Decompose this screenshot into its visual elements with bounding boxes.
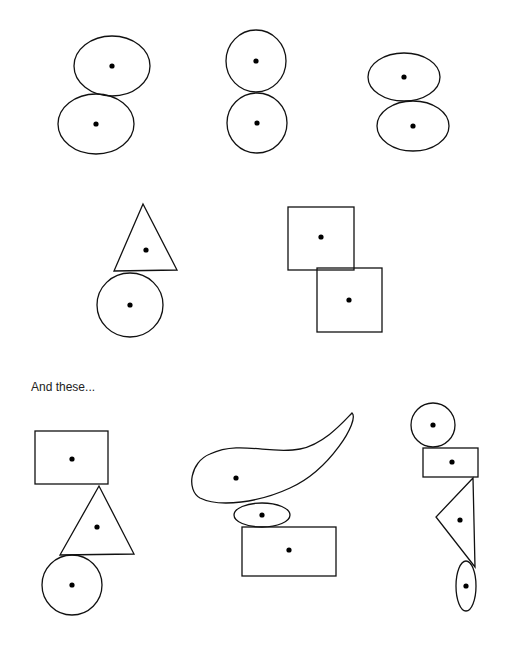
center-dot	[463, 583, 468, 588]
center-dot	[410, 123, 415, 128]
group-circle-rect-triangle-ellipse	[411, 403, 478, 611]
center-dot	[109, 63, 114, 68]
triangle-shape	[114, 204, 177, 271]
shapes-canvas	[0, 0, 509, 656]
group-two-ellipses-offset	[58, 36, 150, 154]
center-dot	[449, 459, 454, 464]
triangle-shape	[436, 478, 475, 567]
center-dot	[253, 58, 258, 63]
center-dot	[233, 475, 238, 480]
center-dot	[93, 121, 98, 126]
group-two-squares-offset	[288, 207, 382, 332]
blob-shape	[192, 413, 354, 503]
triangle-shape	[60, 486, 134, 555]
center-dot	[457, 517, 462, 522]
group-two-circles-stacked	[226, 30, 287, 153]
center-dot	[94, 524, 99, 529]
center-dot	[127, 302, 132, 307]
group-two-flat-ellipses	[368, 53, 449, 151]
center-dot	[259, 512, 264, 517]
center-dot	[318, 234, 323, 239]
group-blob-ellipse-rect	[192, 413, 354, 576]
center-dot	[346, 297, 351, 302]
center-dot	[69, 456, 74, 461]
group-triangle-on-circle	[97, 204, 177, 337]
center-dot	[430, 422, 435, 427]
center-dot	[286, 547, 291, 552]
caption-text: And these...	[31, 380, 95, 394]
group-rect-triangle-circle	[35, 431, 134, 615]
center-dot	[143, 247, 148, 252]
center-dot	[69, 582, 74, 587]
center-dot	[401, 74, 406, 79]
center-dot	[254, 120, 259, 125]
